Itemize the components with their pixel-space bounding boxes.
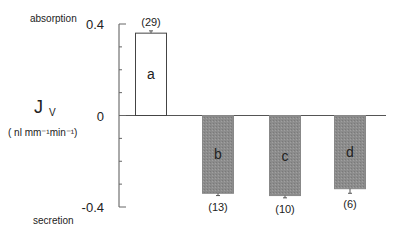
- bar-label-d: d: [346, 144, 354, 160]
- n-label-d: (6): [343, 198, 356, 210]
- n-label-a: (29): [141, 16, 161, 28]
- n-label-b: (13): [208, 201, 228, 213]
- bar-label-a: a: [147, 66, 155, 82]
- y-axis-title: J V ( nl mm⁻¹min⁻¹): [8, 97, 77, 138]
- y-axis-title-sub: V: [49, 107, 56, 118]
- y-tick-label: 0: [97, 109, 104, 124]
- bar-label-b: b: [214, 146, 222, 162]
- y-axis-units: ( nl mm⁻¹min⁻¹): [8, 127, 77, 138]
- n-label-c: (10): [275, 203, 295, 215]
- secretion-label: secretion: [33, 215, 74, 226]
- bar-label-c: c: [282, 148, 289, 164]
- y-tick-label: 0.4: [86, 17, 104, 32]
- bar-chart: absorption secretion J V ( nl mm⁻¹min⁻¹)…: [0, 0, 394, 237]
- y-tick-label: -0.4: [82, 200, 104, 215]
- y-axis-title-main: J: [34, 97, 43, 117]
- absorption-label: absorption: [30, 13, 77, 24]
